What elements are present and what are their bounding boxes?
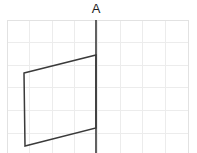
parallelogram-shape <box>24 55 96 146</box>
mirror-line-label: A <box>92 1 101 16</box>
figure-svg: A <box>0 0 197 153</box>
background-grid <box>7 20 188 153</box>
geometry-figure-canvas: A <box>0 0 197 153</box>
